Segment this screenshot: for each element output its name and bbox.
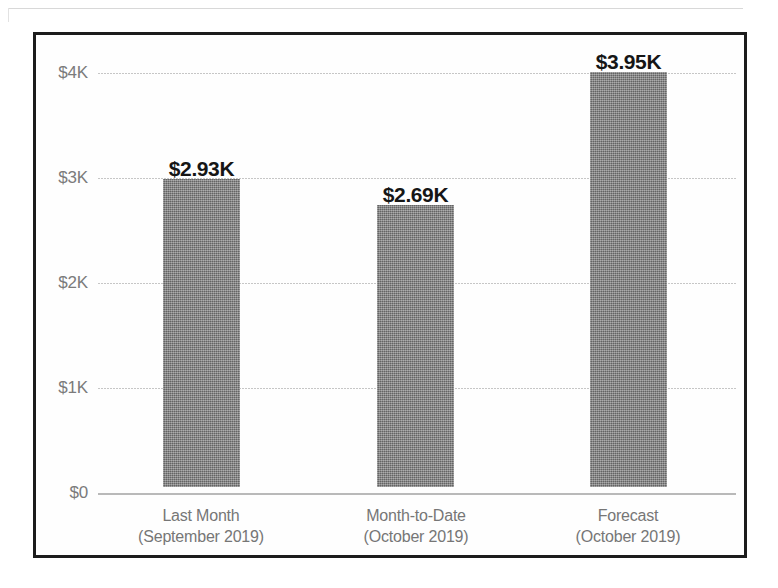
y-axis-tick-label-2k: $2K [36, 273, 88, 293]
y-axis-tick-label-4k: $4K [36, 63, 88, 83]
bar-value-label-last-month: $2.93K [141, 157, 262, 181]
x-axis-category-forecast-period: (October 2019) [528, 526, 728, 547]
x-axis-category-month-to-date-title: Month-to-Date [366, 507, 466, 524]
x-axis-category-last-month-period: (September 2019) [101, 526, 301, 547]
x-axis-category-month-to-date-period: (October 2019) [316, 526, 516, 547]
y-axis-tick-label-1k: $1K [36, 378, 88, 398]
bar-forecast[interactable] [590, 72, 667, 487]
x-axis-category-month-to-date: Month-to-Date (October 2019) [316, 505, 516, 547]
x-axis-category-last-month-title: Last Month [162, 507, 239, 524]
y-axis-tick-label-3k: $3K [36, 168, 88, 188]
bar-value-label-forecast: $3.95K [568, 50, 689, 74]
x-axis-category-forecast: Forecast (October 2019) [528, 505, 728, 547]
x-axis-category-forecast-title: Forecast [598, 507, 659, 524]
bar-last-month[interactable] [163, 179, 240, 487]
bar-chart-frame: $4K $3K $2K $1K $0 $2.93K $2.69K $3.95K [33, 32, 747, 558]
bar-value-label-month-to-date: $2.69K [355, 183, 476, 207]
y-axis-tick-label-0: $0 [36, 483, 88, 503]
x-axis-category-last-month: Last Month (September 2019) [101, 505, 301, 547]
bar-month-to-date[interactable] [377, 205, 454, 487]
axis-baseline [98, 493, 736, 495]
plot-area: $4K $3K $2K $1K $0 $2.93K $2.69K $3.95K [36, 35, 744, 555]
scan-artifact-top-line [8, 8, 743, 9]
scan-artifact-left-edge [8, 8, 9, 22]
